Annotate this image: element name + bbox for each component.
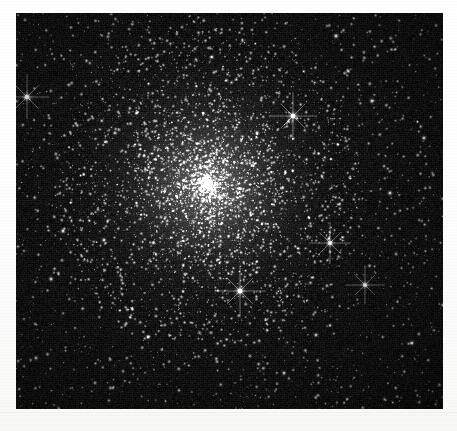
- scan-streak-artifact: [0, 412, 457, 431]
- image-page: [0, 0, 457, 431]
- astronomical-photo-plate: [16, 13, 443, 409]
- globular-cluster-starfield: [16, 13, 443, 409]
